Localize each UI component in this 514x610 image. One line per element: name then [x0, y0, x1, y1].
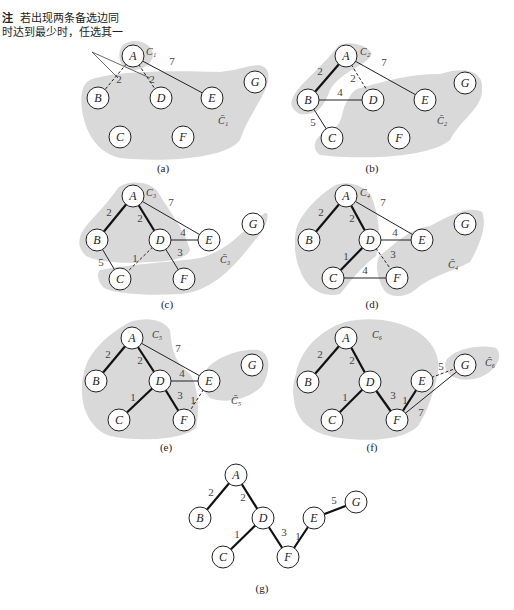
edge-weight-label: 2 [318, 206, 324, 218]
edge-weight-label: 2 [149, 73, 155, 85]
panel-c: 2274351ABCDEFGC₃C̄₃(c) [79, 182, 267, 311]
set-label: C₃ [146, 187, 157, 198]
edge-weight-label: 1 [342, 391, 348, 403]
node-label: G [461, 217, 470, 231]
panel-g: 221315ABCDEFG(g) [189, 464, 367, 595]
panel-a: 227ABCDEFGC₁C̄₁(a) [81, 41, 268, 175]
node-F: F [388, 127, 410, 149]
edge-weight-label: 2 [317, 348, 323, 360]
panel-d: 2274314ABCDEFGC₄C̄₄(d) [295, 183, 484, 311]
node-label: A [341, 189, 350, 203]
node-label: B [196, 511, 204, 525]
node-A: A [121, 327, 143, 349]
node-label: B [304, 375, 312, 389]
edge-weight-label: 2 [137, 354, 143, 366]
node-E: E [201, 87, 223, 109]
edge-weight-label: 7 [380, 196, 386, 208]
edge-weight-label: 2 [105, 348, 111, 360]
set-label: C₁ [146, 46, 156, 57]
node-A: A [335, 185, 357, 207]
panel-caption: (b) [366, 162, 379, 175]
node-label: F [179, 413, 188, 427]
node-A: A [225, 464, 247, 486]
node-label: A [128, 49, 137, 63]
edge-weight-label: 7 [381, 56, 387, 68]
node-D: D [359, 229, 381, 251]
edge-weight-label: 4 [392, 226, 398, 238]
note-pointer-line [92, 52, 118, 78]
node-label: E [420, 93, 429, 107]
complement-set-label: C̄₁ [218, 115, 228, 126]
node-F: F [173, 409, 195, 431]
node-B: B [87, 87, 109, 109]
edge-weight-label: 2 [106, 206, 112, 218]
edge-weight-label: 2 [116, 73, 122, 85]
edge-weight-label: 5 [331, 494, 337, 506]
node-E: E [198, 370, 220, 392]
prim-mst-diagram: 227ABCDEFGC₁C̄₁(a)22745ABCDEFGC₂C̄₂(b)22… [0, 0, 514, 610]
node-G: G [345, 491, 367, 513]
node-label: B [305, 233, 313, 247]
node-B: B [189, 507, 211, 529]
node-G: G [244, 71, 266, 93]
node-label: G [352, 495, 361, 509]
node-D: D [150, 87, 172, 109]
node-label: E [417, 233, 426, 247]
node-label: F [178, 130, 187, 144]
edge-weight-label: 7 [175, 342, 181, 354]
node-F: F [172, 126, 194, 148]
node-label: E [204, 233, 213, 247]
node-label: F [179, 272, 188, 286]
set-label: C₂ [360, 46, 371, 57]
complement-set-label: C̄₂ [437, 115, 448, 126]
set-label: C₄ [360, 187, 371, 198]
edge-weight-label: 2 [137, 212, 143, 224]
node-label: F [392, 413, 401, 427]
set-label: C₆ [372, 329, 383, 340]
complement-set-label: C̄₃ [220, 254, 231, 265]
edge-weight-label: 2 [349, 212, 355, 224]
node-label: G [251, 75, 260, 89]
node-label: C [116, 272, 125, 286]
node-B: B [298, 229, 320, 251]
node-label: A [128, 189, 137, 203]
edge-weight-label: 3 [390, 389, 396, 401]
node-label: A [341, 331, 350, 345]
node-E: E [303, 507, 325, 529]
node-B: B [86, 229, 108, 251]
node-label: B [94, 91, 102, 105]
edge-weight-label: 4 [337, 86, 343, 98]
edge-weight-label: 7 [418, 406, 424, 418]
edge-weight-label: 3 [390, 248, 396, 260]
edge-weight-label: 5 [438, 360, 444, 372]
node-F: F [277, 546, 299, 568]
edge-weight-label: 7 [169, 55, 175, 67]
set-label: C₅ [152, 329, 163, 340]
node-label: F [392, 271, 401, 285]
panel-caption: (d) [366, 298, 379, 311]
edge-weight-label: 7 [168, 196, 174, 208]
edge-weight-label: 5 [98, 256, 104, 268]
node-A: A [335, 45, 357, 67]
edge-weight-label: 4 [362, 264, 368, 276]
node-label: B [92, 374, 100, 388]
edge-weight-label: 1 [130, 391, 136, 403]
edge-weight-label: 2 [350, 72, 356, 84]
node-B: B [297, 89, 319, 111]
node-C: C [212, 546, 234, 568]
node-D: D [252, 507, 274, 529]
complement-set-label: C̄₆ [485, 357, 496, 368]
node-label: D [156, 91, 166, 105]
complement-set-label: C̄₅ [231, 395, 242, 406]
edge-weight-label: 3 [177, 389, 183, 401]
node-label: C [116, 130, 125, 144]
node-A: A [335, 327, 357, 349]
edge-weight-label: 1 [190, 394, 196, 406]
edge-weight-label: 2 [208, 486, 214, 498]
node-label: E [417, 374, 426, 388]
node-E: E [414, 89, 436, 111]
node-A: A [122, 185, 144, 207]
edge-weight-label: 1 [234, 528, 240, 540]
node-label: D [365, 233, 375, 247]
node-label: E [309, 511, 318, 525]
